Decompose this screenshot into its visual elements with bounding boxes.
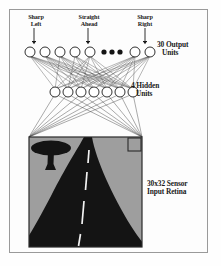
output-row-ellipsis — [101, 49, 122, 54]
label-sensor-retina-line2: Input Retina — [147, 187, 186, 196]
output-unit — [40, 47, 50, 57]
ellipsis-dot — [117, 49, 122, 54]
lane-dash — [88, 150, 89, 163]
hidden-unit-row — [50, 87, 138, 97]
output-unit — [130, 47, 140, 57]
hidden-unit — [89, 87, 99, 97]
sensor-input-retina — [20, 137, 150, 250]
direction-arrows — [34, 28, 145, 42]
label-output-units-line2: Units — [157, 49, 178, 57]
alvinn-figure: Sharp Left Straight Ahead Sharp Right 30… — [0, 0, 221, 266]
label-sensor-retina: 30x32 SensorInput Retina — [147, 180, 213, 196]
output-unit — [55, 47, 65, 57]
label-hidden-units: 4 HiddenUnits — [131, 82, 189, 98]
ellipsis-dot — [101, 49, 106, 54]
output-unit-row — [25, 47, 155, 57]
ellipsis-dot — [109, 49, 114, 54]
hidden-unit — [102, 87, 112, 97]
hidden-unit — [63, 87, 73, 97]
label-sharp-left: Sharp Left — [19, 14, 53, 27]
label-sharp-right: Sharp Right — [128, 14, 162, 27]
output-unit — [145, 47, 155, 57]
label-output-units: 30 OutputUnits — [157, 41, 215, 57]
output-unit — [85, 47, 95, 57]
label-straight-ahead: Straight Ahead — [70, 14, 108, 27]
hidden-unit — [115, 87, 125, 97]
hidden-unit — [76, 87, 86, 97]
label-hidden-units-line2: Units — [131, 90, 152, 98]
output-unit — [70, 47, 80, 57]
output-unit — [25, 47, 35, 57]
retina-to-hidden-connections — [29, 94, 142, 137]
hidden-unit — [50, 87, 60, 97]
